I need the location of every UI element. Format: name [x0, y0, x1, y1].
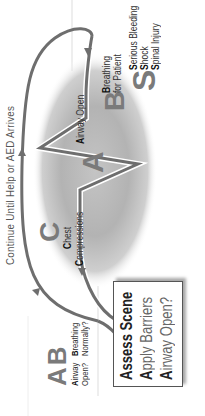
cpr-cycle-diagram: Continue Until Help or AED Arrives C Che… [0, 0, 205, 416]
airway-open-label: Airway Open [76, 95, 86, 144]
assess-scene-box: Assess Scene Apply Barriers Airway Open? [113, 281, 183, 387]
s-item-serious-bleeding: Serious Bleeding [128, 6, 139, 70]
breathing-normally-check-label: Breathing Normally? [70, 322, 90, 356]
assess-line: Airway Open? [157, 292, 177, 380]
airway-open-check-label: Airway Open? [70, 363, 90, 386]
chest-compressions-label: Chest Compressions [62, 212, 86, 266]
arrow-icon [32, 288, 40, 296]
cycle-title: Continue Until Help or AED Arrives [4, 106, 16, 265]
letter-s: S [128, 70, 160, 91]
breathing-for-patient-label: Breathing for Patient [101, 54, 123, 93]
s-item-shock: Shock [139, 6, 150, 70]
letter-c: C [36, 222, 64, 242]
assess-line: Apply Barriers [137, 292, 157, 380]
s-item-spinal-injury: Spinal Injury [150, 6, 161, 70]
s-list: Serious Bleeding Shock Spinal Injury [128, 6, 161, 70]
letter-b: B [101, 91, 129, 111]
letter-a: A [78, 151, 108, 173]
check-letters: AB [44, 344, 70, 386]
arrow-icon [18, 148, 26, 156]
assess-line: Assess Scene [117, 292, 137, 380]
